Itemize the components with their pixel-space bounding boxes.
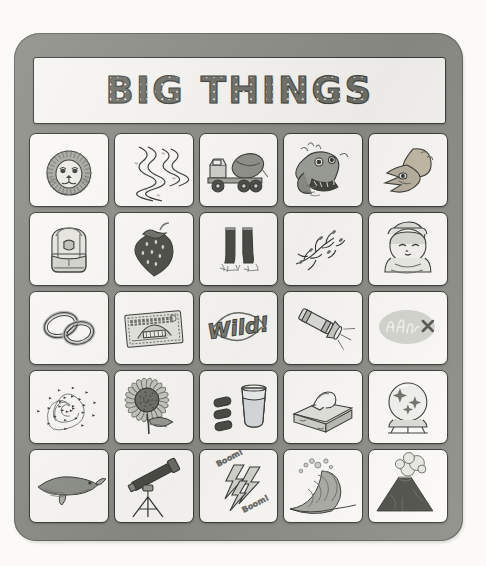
wedding-rings-icon [30,292,108,364]
volcano-icon [369,450,447,522]
strawberry-icon [115,213,193,285]
bingo-grid: ≈≈≈≈≈ [29,133,448,523]
bingo-cell-backpack[interactable] [29,212,109,286]
bingo-cell-whale[interactable] [29,449,109,523]
svg-text:≈: ≈ [143,186,147,192]
bingo-cell-flashlight[interactable] [283,291,363,365]
bingo-cell-lightning-bolts[interactable]: Boom! Boom! [199,449,279,523]
bingo-card: BIG THINGS BIG THINGS ≈≈≈≈≈ [14,33,463,541]
bingo-cell-cement-truck[interactable] [199,133,279,207]
bingo-cell-strawberry[interactable] [114,212,194,286]
branches-icon [284,213,362,285]
bingo-cell-graffiti-scribble[interactable] [368,291,448,365]
cement-truck-icon [200,134,278,206]
svg-text:≈: ≈ [161,150,165,156]
svg-text:≈: ≈ [172,175,176,181]
dragon-head-icon [284,134,362,206]
bingo-cell-sunflower[interactable] [114,370,194,444]
hurricane-spiral-icon [30,371,108,443]
lightning-bolts-icon: Boom! Boom! [200,450,278,522]
title-panel: BIG THINGS BIG THINGS [33,57,446,124]
graffiti-scribble-icon [369,292,447,364]
bingo-cell-wedding-rings[interactable] [29,291,109,365]
svg-text:≈: ≈ [134,160,138,166]
bingo-cell-rain-boots[interactable] [199,212,279,286]
bingo-cell-lion-head[interactable] [29,133,109,207]
bingo-cell-tissue-box[interactable] [283,370,363,444]
lion-head-icon [30,134,108,206]
svg-text:Wild!: Wild! [206,312,271,344]
bingo-cell-swaddled-baby[interactable] [368,212,448,286]
bingo-cell-dinosaur-skull[interactable] [368,133,448,207]
bingo-cell-telescope[interactable] [114,449,194,523]
pills-and-water-icon [200,371,278,443]
bingo-cell-dragon-head[interactable] [283,133,363,207]
bingo-cell-hurricane-spiral[interactable] [29,370,109,444]
bingo-cell-crystal-ball[interactable] [368,370,448,444]
telescope-icon [115,450,193,522]
rain-boots-icon [200,213,278,285]
banknote-ticket-icon [115,292,193,364]
dinosaur-skull-icon [369,134,447,206]
bingo-cell-river-snake[interactable]: ≈≈≈≈≈ [114,133,194,207]
page-title: BIG THINGS [105,69,373,112]
swaddled-baby-icon [369,213,447,285]
wild-logo-icon: Wild! [200,292,278,364]
flashlight-icon [284,292,362,364]
crystal-ball-icon [369,371,447,443]
svg-text:≈: ≈ [156,192,160,198]
bingo-cell-ocean-wave[interactable] [283,449,363,523]
backpack-icon [30,213,108,285]
ocean-wave-icon [284,450,362,522]
river-snake-icon: ≈≈≈≈≈ [115,134,193,206]
bingo-cell-branches[interactable] [283,212,363,286]
bingo-cell-pills-and-water[interactable] [199,370,279,444]
tissue-box-icon [284,371,362,443]
sunflower-icon [115,371,193,443]
bingo-cell-volcano[interactable] [368,449,448,523]
whale-icon [30,450,108,522]
bingo-cell-banknote-ticket[interactable] [114,291,194,365]
bingo-cell-wild-logo[interactable]: Wild! [199,291,279,365]
